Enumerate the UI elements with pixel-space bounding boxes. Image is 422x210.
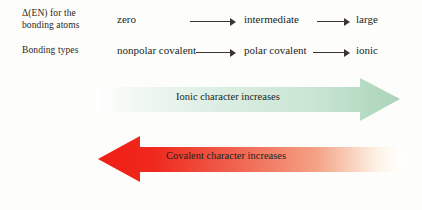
connector-arrow-row2-2-head (344, 49, 350, 57)
covalent-character-arrow-label: Covalent character increases (166, 150, 286, 162)
connector-arrow-row2-1-head (230, 49, 236, 57)
cell-bonding-nonpolar-covalent: nonpolar covalent (117, 44, 196, 57)
row-label-delta-en-line1: Δ(EN) for the (22, 8, 80, 20)
cell-bonding-polar-covalent: polar covalent (244, 44, 307, 57)
connector-arrow-row1-1-head (230, 18, 236, 26)
cell-delta-en-intermediate: intermediate (244, 13, 299, 26)
cell-delta-en-large: large (356, 13, 378, 26)
connector-arrow-row1-2-head (344, 18, 350, 26)
connector-arrow-row2-1 (196, 48, 236, 57)
connector-arrow-row1-1 (190, 17, 236, 26)
ionic-character-arrow: Ionic character increases (96, 74, 406, 126)
cell-bonding-ionic: ionic (356, 44, 378, 57)
ionic-character-arrow-label: Ionic character increases (176, 91, 280, 103)
row-label-delta-en-line2: bonding atoms (22, 20, 80, 32)
connector-arrow-row1-2-shaft (317, 21, 344, 22)
connector-arrow-row1-1-shaft (190, 21, 230, 22)
connector-arrow-row2-2-shaft (313, 52, 344, 53)
connector-arrow-row2-2 (313, 48, 350, 57)
row-label-bonding-types: Bonding types (22, 45, 78, 57)
connector-arrow-row1-2 (317, 17, 350, 26)
connector-arrow-row2-1-shaft (196, 52, 230, 53)
covalent-character-arrow: Covalent character increases (96, 134, 406, 186)
cell-delta-en-zero: zero (117, 13, 136, 26)
row-label-delta-en: Δ(EN) for the bonding atoms (22, 8, 80, 31)
figure-canvas: Δ(EN) for the bonding atoms zero interme… (0, 0, 422, 210)
